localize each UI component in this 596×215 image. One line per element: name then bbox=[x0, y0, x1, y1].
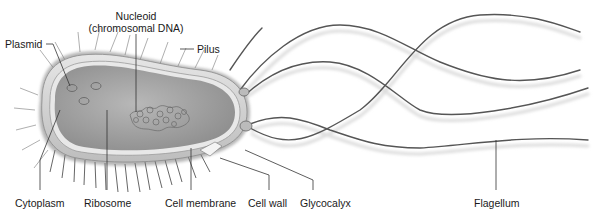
nucleoid-label-line2: (chromosomal DNA) bbox=[88, 22, 184, 34]
flagellum-1 bbox=[240, 25, 580, 90]
glycocalyx-label: Glycocalyx bbox=[300, 197, 351, 209]
flagellum-2 bbox=[244, 62, 588, 115]
flagellum-stub bbox=[230, 28, 262, 70]
nucleoid-label: Nucleoid (chromosomal DNA) bbox=[88, 10, 184, 34]
flagella bbox=[230, 15, 588, 154]
nucleoid-label-line1: Nucleoid bbox=[88, 10, 184, 22]
pilus-label: Pilus bbox=[197, 43, 220, 55]
ribosome-label: Ribosome bbox=[84, 197, 131, 209]
cell-wall-label: Cell wall bbox=[248, 197, 287, 209]
flagellum-4 bbox=[250, 15, 580, 140]
cytoplasm-label: Cytoplasm bbox=[15, 197, 65, 209]
cell-membrane-label: Cell membrane bbox=[165, 197, 236, 209]
flagellum-label: Flagellum bbox=[474, 197, 520, 209]
bacterial-cell-diagram: Plasmid Nucleoid (chromosomal DNA) Pilus… bbox=[0, 0, 596, 215]
plasmid-label: Plasmid bbox=[5, 38, 42, 50]
cell-wall-leader bbox=[220, 158, 269, 190]
